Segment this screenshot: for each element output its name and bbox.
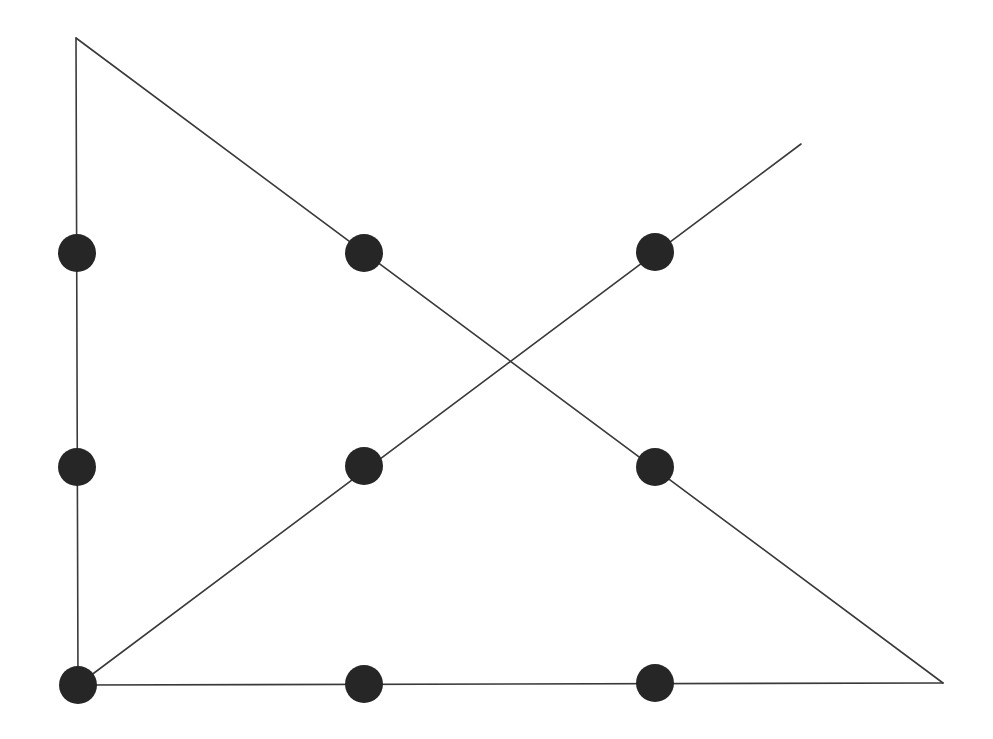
dot-r2-c3 (636, 448, 674, 486)
line-segment-3 (76, 38, 943, 683)
solution-lines (76, 38, 943, 685)
nine-dots-diagram (0, 0, 993, 739)
dot-r2-c1 (58, 448, 96, 486)
line-segment-1 (78, 144, 801, 685)
dot-r3-c1 (59, 666, 97, 704)
dot-r3-c2 (345, 665, 383, 703)
dot-r1-c2 (345, 234, 383, 272)
line-segment-2 (78, 683, 943, 685)
dot-r3-c3 (636, 664, 674, 702)
line-segment-4 (76, 38, 78, 685)
dot-r2-c2 (345, 447, 383, 485)
dot-grid (58, 233, 674, 704)
dot-r1-c3 (636, 233, 674, 271)
dot-r1-c1 (58, 234, 96, 272)
